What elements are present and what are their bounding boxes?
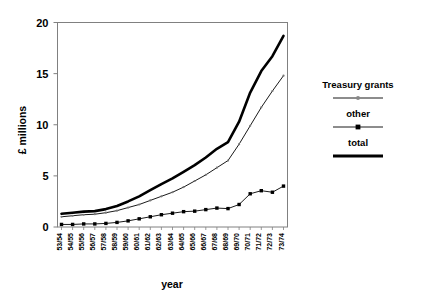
data-point-marker [138, 217, 141, 220]
data-point-marker [271, 191, 274, 194]
data-point-marker [94, 213, 96, 215]
data-point-marker [227, 159, 229, 161]
data-point-marker [126, 219, 129, 222]
data-point-marker [116, 210, 118, 212]
x-axis-category-label: 62/63 [155, 233, 162, 251]
x-axis-title: year [161, 278, 183, 290]
data-point-marker [215, 206, 218, 209]
legend-entry-label: total [348, 137, 368, 148]
x-axis-category-label: 63/64 [167, 233, 174, 251]
x-axis-category-label: 58/59 [111, 233, 118, 251]
y-axis-tick-label: 15 [36, 68, 48, 80]
data-point-marker [237, 203, 240, 206]
data-point-marker [171, 211, 174, 214]
data-point-marker [71, 223, 74, 226]
y-axis-tick-label: 10 [36, 119, 48, 131]
data-point-marker [115, 221, 118, 224]
y-axis-tick-label: 20 [36, 17, 48, 29]
data-point-marker [182, 210, 185, 213]
data-point-marker [226, 207, 229, 210]
data-point-marker [104, 222, 107, 225]
y-axis-title: £ millions [16, 106, 28, 155]
data-point-marker [60, 223, 63, 226]
legend-marker-swatch [356, 125, 361, 130]
data-point-marker [60, 216, 62, 218]
data-point-marker [149, 199, 151, 201]
data-point-marker [193, 209, 196, 212]
data-point-marker [216, 167, 218, 169]
x-axis-category-label: 67/68 [211, 233, 218, 251]
data-point-marker [138, 203, 140, 205]
data-point-marker [93, 222, 96, 225]
x-axis-category-label: 68/69 [222, 233, 229, 251]
x-axis-category-label: 66/67 [200, 233, 207, 251]
data-point-marker [83, 214, 85, 216]
data-point-marker [105, 212, 107, 214]
x-axis-category-label: 57/58 [100, 233, 107, 251]
data-point-marker [260, 106, 262, 108]
y-axis-tick-label: 0 [42, 221, 48, 233]
x-axis-category-label: 59/60 [122, 233, 129, 251]
data-point-marker [160, 213, 163, 216]
data-point-marker [194, 180, 196, 182]
x-axis-category-label: 56/57 [89, 233, 96, 251]
data-point-marker [82, 222, 85, 225]
y-axis-tick-label: 5 [42, 170, 48, 182]
legend-marker-swatch [356, 96, 360, 100]
x-axis-category-label: 71/72 [255, 233, 262, 251]
x-axis-category-label: 60/61 [133, 233, 140, 251]
x-axis-category-label: 61/62 [144, 233, 151, 251]
data-point-marker [249, 125, 251, 127]
data-point-marker [205, 174, 207, 176]
legend-entry-label: other [346, 108, 370, 119]
x-axis-category-label: 73/74 [278, 233, 285, 251]
legend-entry-label: Treasury grants [322, 79, 393, 90]
x-axis-category-label: 65/66 [189, 233, 196, 251]
line-chart-svg: 05101520 £ millions 53/5454/5555/5656/57… [0, 0, 425, 304]
x-axis-category-label: 64/65 [178, 233, 185, 251]
data-point-marker [183, 186, 185, 188]
data-point-marker [282, 184, 285, 187]
data-point-marker [271, 90, 273, 92]
x-axis-category-label: 70/71 [244, 233, 251, 251]
data-point-marker [249, 192, 252, 195]
data-point-marker [171, 191, 173, 193]
data-point-marker [149, 215, 152, 218]
data-point-marker [127, 206, 129, 208]
x-axis-category-label: 72/73 [266, 233, 273, 251]
data-point-marker [282, 75, 284, 77]
x-axis-category-label: 69/70 [233, 233, 240, 251]
data-point-marker [238, 143, 240, 145]
x-axis-category-label: 54/55 [67, 233, 74, 251]
data-point-marker [260, 189, 263, 192]
plot-area-frame [58, 23, 288, 228]
x-axis-category-label: 55/56 [78, 233, 85, 251]
data-point-marker [160, 195, 162, 197]
x-axis-category-label: 53/54 [56, 233, 63, 251]
data-point-marker [72, 215, 74, 217]
data-point-marker [204, 208, 207, 211]
chart-figure: 05101520 £ millions 53/5454/5555/5656/57… [0, 0, 425, 304]
